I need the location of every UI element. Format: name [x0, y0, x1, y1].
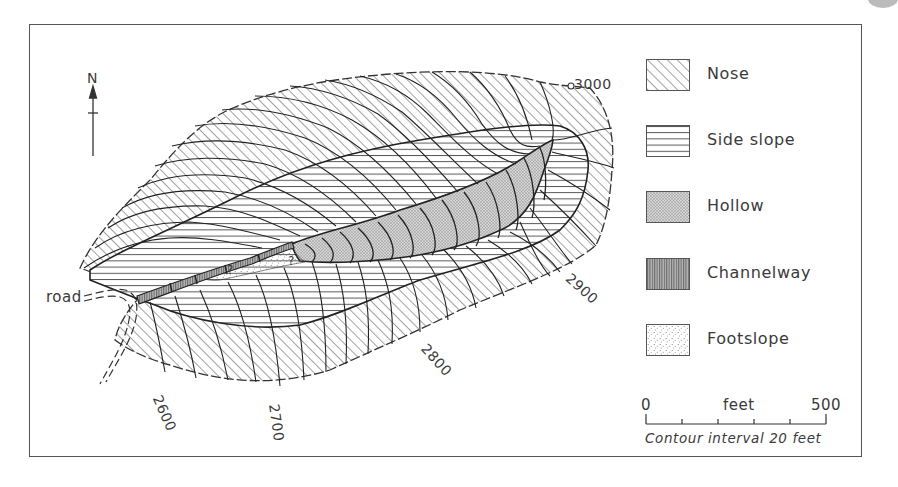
scale-unit: feet	[723, 396, 755, 414]
scale-bar	[646, 414, 826, 424]
legend-label: Channelway	[707, 263, 811, 282]
road-label: road	[46, 288, 82, 306]
scale-end: 500	[811, 396, 841, 414]
legend-label: Side slope	[707, 130, 795, 149]
contour-label-3000: 3000	[574, 76, 612, 92]
side-slope-swatch-icon	[646, 125, 690, 157]
north-arrow	[88, 86, 98, 156]
scale-start: 0	[641, 396, 651, 414]
contour-interval-caption: Contour interval 20 feet	[645, 430, 821, 446]
legend-label: Hollow	[707, 196, 764, 215]
uncertain-marker: ?	[288, 254, 295, 268]
nose-swatch-icon	[646, 59, 690, 91]
legend-label: Nose	[707, 64, 749, 83]
north-label: N	[87, 70, 98, 86]
footslope-swatch-icon	[646, 324, 690, 356]
channelway-swatch-icon	[646, 258, 690, 290]
legend-label: Footslope	[707, 329, 789, 348]
uncertain-marker: ?	[227, 263, 234, 277]
hollow-swatch-icon	[646, 191, 690, 223]
